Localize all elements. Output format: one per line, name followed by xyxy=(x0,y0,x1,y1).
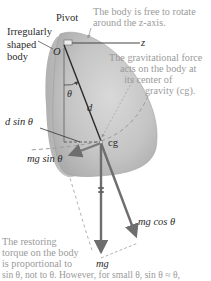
gravity-note-line1: The gravitational force xyxy=(109,52,202,63)
rotation-note: The body is free to rotate around the z-… xyxy=(93,6,196,28)
gravity-note-line3: its center of xyxy=(109,74,202,85)
rotation-note-line1: The body is free to rotate xyxy=(93,6,196,17)
body-label-line3: body xyxy=(7,52,28,63)
pivot-label: Pivot xyxy=(56,13,78,24)
cg-label: cg xyxy=(108,138,118,149)
body-label-line2: shaped xyxy=(7,40,36,51)
torque-note-line1: The restoring xyxy=(2,236,180,247)
d-sin-theta-text: d sin θ xyxy=(5,116,33,127)
torque-note-line2: torque on the body xyxy=(2,247,180,258)
torque-note-line3: is proportional to xyxy=(2,258,180,269)
body-label-line1: Irregularly xyxy=(7,27,52,38)
torque-note: The restoring torque on the body is prop… xyxy=(2,236,180,280)
gravity-note: The gravitational force acts on the body… xyxy=(109,52,202,96)
origin-label: O xyxy=(53,47,61,58)
cg-point xyxy=(99,140,102,143)
mg-sin-theta-label: mg sin θ xyxy=(27,154,63,165)
d-sin-theta-label: d sin θ xyxy=(5,117,33,128)
rotation-note-line2: around the z-axis. xyxy=(93,17,196,28)
gravity-note-line2: acts on the body at xyxy=(109,63,202,74)
theta-label: θ xyxy=(67,89,72,99)
z-axis-label: z xyxy=(141,38,145,49)
physical-pendulum-diagram: Pivot Irregularly shaped body O z θ d d … xyxy=(0,0,211,281)
torque-note-line4: sin θ, not to θ. However, for small θ, s… xyxy=(2,269,180,280)
gravity-note-line4: gravity (cg). xyxy=(109,85,202,96)
mg-cos-theta-label: mg cos θ xyxy=(138,217,175,228)
d-label: d xyxy=(87,103,92,114)
pivot-pin xyxy=(64,40,72,45)
